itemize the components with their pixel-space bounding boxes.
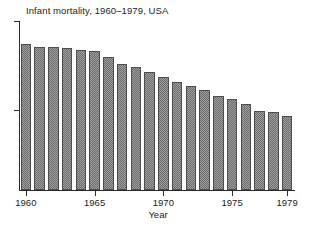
x-axis-tick-1970 bbox=[163, 191, 164, 196]
x-axis-tick-1960 bbox=[26, 191, 27, 196]
x-axis-tick-1975 bbox=[232, 191, 233, 196]
bar-1969 bbox=[144, 72, 154, 190]
x-axis-tick-label-1965: 1965 bbox=[84, 197, 105, 208]
bar-1968 bbox=[131, 67, 141, 190]
bar-1963 bbox=[62, 48, 72, 190]
x-axis-tick-1965 bbox=[95, 191, 96, 196]
chart-title: Infant mortality, 1960–1979, USA bbox=[26, 5, 168, 17]
bar-1972 bbox=[186, 86, 196, 190]
bar-1977 bbox=[254, 111, 264, 190]
bar-1966 bbox=[103, 57, 113, 191]
bar-1974 bbox=[213, 96, 223, 190]
bar-1975 bbox=[227, 99, 237, 190]
bar-1965 bbox=[89, 51, 99, 190]
x-axis-tick-1979 bbox=[287, 191, 288, 196]
bar-1970 bbox=[158, 77, 168, 190]
bar-1964 bbox=[76, 50, 86, 190]
bar-1961 bbox=[34, 47, 44, 190]
bar-1967 bbox=[117, 64, 127, 190]
bar-1979 bbox=[282, 116, 292, 190]
x-axis-title: Year bbox=[0, 209, 316, 220]
bar-1960 bbox=[21, 44, 31, 190]
x-axis-tick-label-1975: 1975 bbox=[222, 197, 243, 208]
bar-1978 bbox=[268, 112, 278, 190]
infant-mortality-bar-chart-figure: Infant mortality, 1960–1979, USA Year 19… bbox=[0, 0, 316, 234]
x-axis-tick-label-1970: 1970 bbox=[153, 197, 174, 208]
x-axis-line bbox=[19, 190, 295, 191]
x-axis-tick-label-1960: 1960 bbox=[15, 197, 36, 208]
bar-1976 bbox=[241, 104, 251, 190]
bar-1973 bbox=[199, 90, 209, 190]
bar-1971 bbox=[172, 82, 182, 190]
plot-area bbox=[19, 21, 294, 190]
x-axis-tick-label-1979: 1979 bbox=[277, 197, 298, 208]
bar-1962 bbox=[48, 47, 58, 190]
